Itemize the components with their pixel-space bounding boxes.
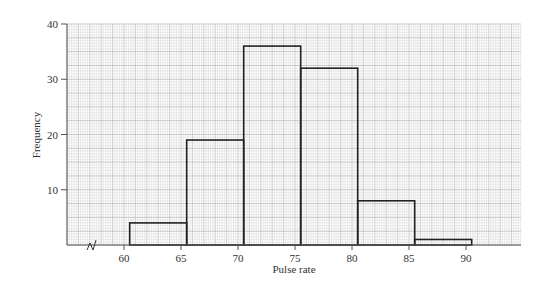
y-tick-label: 30	[47, 73, 59, 85]
x-tick-label: 60	[119, 252, 131, 264]
x-tick-label: 80	[347, 252, 359, 264]
x-tick-label: 70	[233, 252, 245, 264]
y-tick-label: 10	[47, 184, 59, 196]
histogram-chart: 1020304060657075808590 Pulse rate Freque…	[0, 0, 549, 289]
y-tick-label: 40	[47, 18, 59, 30]
x-tick-label: 85	[404, 252, 416, 264]
y-tick-label: 20	[47, 129, 59, 141]
grid	[67, 24, 521, 245]
x-tick-label: 65	[176, 252, 188, 264]
x-tick-label: 90	[461, 252, 473, 264]
y-axis-label: Frequency	[30, 111, 42, 158]
x-axis-label: Pulse rate	[272, 263, 315, 275]
